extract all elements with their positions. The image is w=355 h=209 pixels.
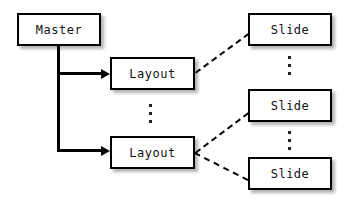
vertical-ellipsis-icon-layouts (148, 104, 152, 123)
connector-layout2-to-slide2 (195, 112, 249, 153)
node-slide-2[interactable]: Slide (248, 89, 332, 122)
node-slide-3[interactable]: Slide (248, 157, 332, 190)
ellipsis-dot (288, 139, 291, 142)
connector-layout2-to-slide3 (194, 152, 248, 181)
node-slide-1[interactable]: Slide (248, 13, 332, 46)
node-layout-2[interactable]: Layout (110, 136, 195, 169)
node-layout-2-label: Layout (129, 147, 175, 159)
arrowhead-layout1 (101, 69, 110, 79)
ellipsis-dot (149, 112, 152, 115)
node-master[interactable]: Master (17, 13, 101, 46)
ellipsis-dot (288, 147, 291, 150)
node-slide-1-label: Slide (271, 24, 310, 36)
connector-master-to-layout1-branch (57, 72, 104, 75)
vertical-ellipsis-icon-slides-upper (287, 56, 291, 75)
arrowhead-layout2 (101, 146, 110, 156)
node-slide-3-label: Slide (271, 168, 310, 180)
ellipsis-dot (288, 131, 291, 134)
connector-layout1-to-slide1 (195, 33, 249, 74)
ellipsis-dot (149, 104, 152, 107)
connector-master-to-layout2-branch (57, 149, 104, 152)
diagram-canvas: Master Layout Layout Slide Slide Slide (0, 0, 355, 209)
ellipsis-dot (288, 56, 291, 59)
node-master-label: Master (36, 24, 82, 36)
ellipsis-dot (149, 120, 152, 123)
vertical-ellipsis-icon-slides-lower (287, 131, 291, 150)
connector-master-trunk (57, 46, 60, 152)
ellipsis-dot (288, 72, 291, 75)
node-layout-1-label: Layout (129, 68, 175, 80)
node-layout-1[interactable]: Layout (110, 57, 195, 90)
node-slide-2-label: Slide (271, 100, 310, 112)
ellipsis-dot (288, 64, 291, 67)
